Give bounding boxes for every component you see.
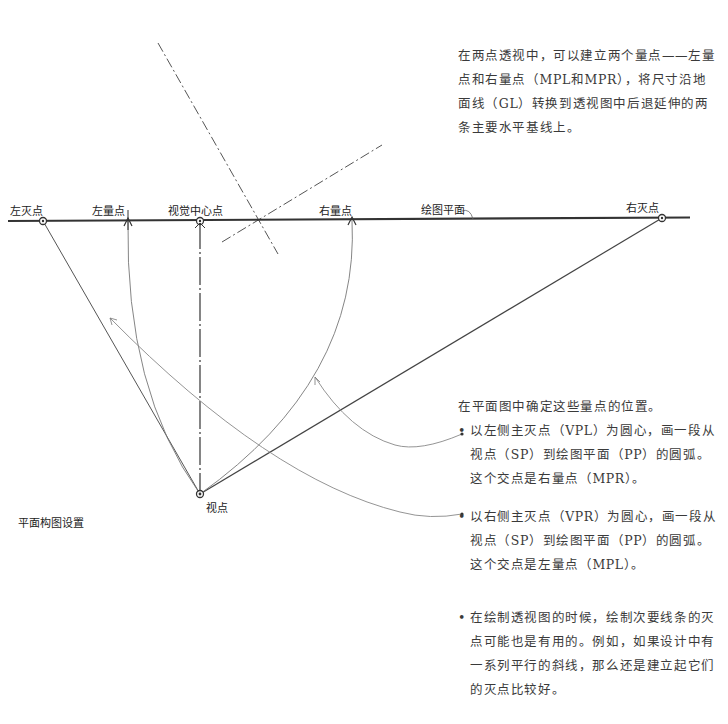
tip-text: 在绘制透视图的时候，绘制次要线条的灭点可能也是有用的。例如，如果设计中有一系列平…	[470, 610, 715, 697]
sight-line-left	[43, 221, 200, 494]
leader-line-step2	[110, 318, 462, 517]
step-1-text: 以左侧主灭点（VPL）为圆心，画一段从视点（SP）到绘图平面（PP）的圆弧。这个…	[470, 423, 715, 486]
tip-item: • 在绘制透视图的时候，绘制次要线条的灭点可能也是有用的。例如，如果设计中有一系…	[458, 606, 718, 702]
arc-left-measuring-point	[128, 221, 200, 494]
left-vanishing-point-marker	[40, 218, 47, 225]
steps-lead: 在平面图中确定这些量点的位置。	[458, 395, 718, 419]
tip-block: • 在绘制透视图的时候，绘制次要线条的灭点可能也是有用的。例如，如果设计中有一系…	[458, 606, 718, 702]
step-2-item: • 以右侧主灭点（VPR）为圆心，画一段从视点（SP）到绘图平面（PP）的圆弧。…	[458, 505, 718, 577]
label-left-vanishing-point: 左灭点	[10, 202, 43, 218]
picture-plane-line	[8, 218, 690, 222]
bullet-icon: •	[458, 606, 466, 630]
intro-paragraph: 在两点透视中，可以建立两个量点——左量点和右量点（MPL和MPR），将尺寸沿地面…	[458, 44, 716, 140]
label-station-point: 视点	[206, 499, 228, 515]
step-2-text: 以右侧主灭点（VPR）为圆心，画一段从视点（SP）到绘图平面（PP）的圆弧。这个…	[470, 509, 716, 572]
arc-right-measuring-point	[200, 220, 352, 494]
right-vanishing-point-marker	[659, 215, 666, 222]
bullet-icon: •	[458, 505, 466, 529]
steps-block: 在平面图中确定这些量点的位置。 • 以左侧主灭点（VPL）为圆心，画一段从视点（…	[458, 395, 718, 577]
label-right-measuring-point: 右量点	[319, 202, 352, 218]
dashed-diagonal-line-1	[158, 43, 278, 254]
step-1-item: • 以左侧主灭点（VPL）为圆心，画一段从视点（SP）到绘图平面（PP）的圆弧。…	[458, 419, 718, 491]
label-right-vanishing-point: 右灭点	[626, 199, 659, 215]
bullet-icon: •	[458, 419, 466, 443]
label-picture-plane: 绘图平面	[421, 201, 465, 217]
station-point-marker	[197, 491, 204, 498]
dashed-diagonal-line-2	[222, 145, 382, 242]
label-left-measuring-point: 左量点	[92, 202, 125, 218]
label-center-of-vision: 视觉中心点	[168, 202, 223, 218]
label-plan-setup: 平面构图设置	[18, 514, 84, 530]
